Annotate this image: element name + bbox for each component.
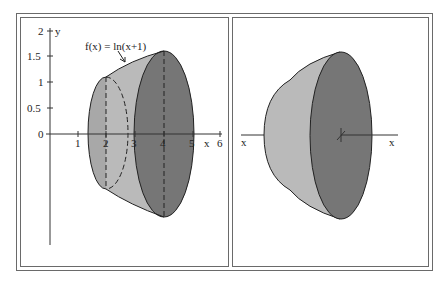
- right-plot-svg: x x: [0, 0, 435, 285]
- right-axis-label-right: x: [389, 136, 395, 148]
- right-axis-label-left: x: [241, 136, 247, 148]
